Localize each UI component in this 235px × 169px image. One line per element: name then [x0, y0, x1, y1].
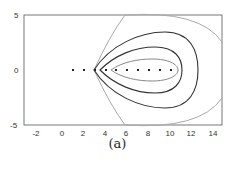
figure-caption: (a)	[0, 136, 235, 151]
svg-text:0: 0	[14, 66, 19, 75]
y-axis: 5 0 -5	[10, 11, 19, 130]
contour-inner	[111, 59, 178, 81]
data-points	[72, 69, 172, 71]
contour-outer	[94, 14, 222, 125]
svg-text:-5: -5	[10, 121, 18, 130]
contour-second	[100, 47, 182, 93]
plot-frame	[24, 15, 222, 125]
svg-text:5: 5	[14, 11, 19, 20]
